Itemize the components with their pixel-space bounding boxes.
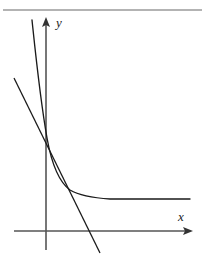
graph-figure: y x [0, 0, 205, 257]
figure-container: y x [0, 0, 205, 257]
exponential-decay-curve [32, 20, 190, 199]
x-axis-group [14, 227, 193, 235]
y-axis-label: y [54, 15, 62, 30]
x-axis-label: x [177, 209, 184, 224]
tangent-line [14, 78, 100, 253]
